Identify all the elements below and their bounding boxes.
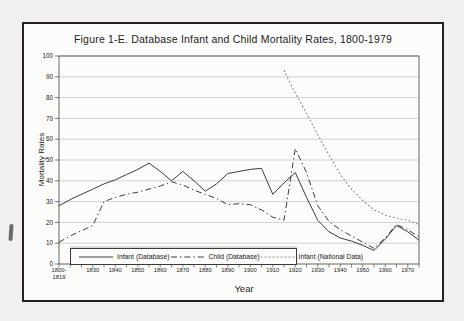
gridlines — [59, 56, 419, 243]
series-line-child-database — [59, 149, 419, 249]
figure-frame: Figure 1-E. Database Infant and Child Mo… — [22, 22, 444, 302]
x-tick-label: 1819 — [53, 274, 66, 280]
x-tick-label: 1920 — [289, 267, 302, 273]
y-tick-label: 90 — [46, 73, 54, 80]
legend-item-infant-database: Infant (Database) — [78, 253, 170, 261]
legend-label: Infant (Database) — [117, 253, 170, 260]
x-tick-label: 1900 — [244, 267, 257, 273]
x-tick-label: 1880 — [199, 267, 212, 273]
x-tick-label: 1950 — [356, 267, 369, 273]
x-tick-label: 1910 — [266, 267, 279, 273]
y-tick-label: 10 — [46, 239, 54, 246]
x-tick-label: 1870 — [176, 267, 189, 273]
x-tick-label: 1930 — [311, 267, 324, 273]
chart-legend: Infant (Database)Child (Database)Infant … — [70, 248, 297, 265]
x-axis-title: Year — [24, 283, 464, 294]
y-axis-title: Mortality Rates — [37, 120, 48, 200]
x-tick-label: 1840 — [109, 267, 122, 273]
x-tick-label: 1860 — [154, 267, 167, 273]
scan-artifact-mark — [8, 224, 13, 241]
legend-line-sample-dotted-icon — [260, 253, 296, 261]
legend-item-infant-national-data: Infant (National Data) — [260, 253, 364, 261]
x-tick-label: 1850 — [131, 267, 144, 273]
series-line-infant-database — [59, 163, 419, 250]
legend-line-sample-solid-icon — [78, 253, 114, 261]
y-tick-label: 100 — [42, 52, 53, 59]
legend-item-child-database: Child (Database) — [170, 253, 260, 261]
y-tick-label: 80 — [46, 94, 54, 101]
x-tick-label: 1940 — [334, 267, 347, 273]
legend-line-sample-dashdot-icon — [170, 253, 206, 261]
x-tick-label: 1970 — [401, 267, 414, 273]
x-tick-label: 1890 — [221, 267, 234, 273]
legend-label: Child (Database) — [209, 253, 260, 260]
figure-title: Figure 1-E. Database Infant and Child Mo… — [24, 33, 442, 45]
x-tick-label: 1830 — [86, 267, 99, 273]
mortality-line-chart: 01020304050607080901001800-1819183018401… — [38, 52, 420, 280]
scanned-page-background: Figure 1-E. Database Infant and Child Mo… — [0, 0, 464, 321]
y-tick-label: 20 — [46, 219, 54, 226]
legend-label: Infant (National Data) — [299, 253, 364, 260]
x-axis-labels: 1800-18191830184018501860187018801890190… — [52, 267, 415, 280]
x-tick-label: 1800- — [52, 267, 67, 273]
x-tick-label: 1960 — [379, 267, 392, 273]
